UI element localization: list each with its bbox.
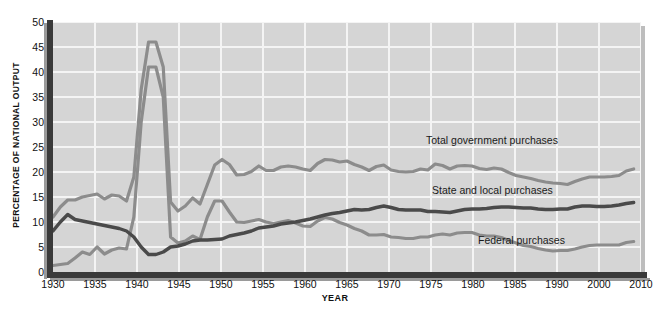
annotation-federal: Federal purchases: [478, 234, 565, 246]
y-tick-label: 0: [20, 267, 44, 278]
y-tick-label: 10: [20, 217, 44, 228]
y-tick-label: 40: [20, 67, 44, 78]
y-axis-bar: [47, 20, 53, 276]
annotation-total-government: Total government purchases: [426, 134, 558, 146]
annotation-state-and-local: State and local purchases: [432, 184, 553, 196]
y-tick-label: 45: [20, 42, 44, 53]
y-tick-label: 15: [20, 192, 44, 203]
x-tick-label: 2010: [616, 278, 666, 290]
chart-container: PERCENTAGE OF NATIONAL OUTPUT 5045403530…: [0, 0, 670, 314]
y-tick-label: 20: [20, 167, 44, 178]
plot-right-edge: [641, 26, 645, 276]
x-axis-title: YEAR: [0, 293, 670, 303]
y-tick-label: 35: [20, 92, 44, 103]
y-tick-label: 30: [20, 117, 44, 128]
y-tick-label: 25: [20, 142, 44, 153]
y-axis-tick-labels: 50454035302520151050: [12, 0, 44, 314]
series-line: [53, 203, 634, 255]
y-tick-label: 5: [20, 242, 44, 253]
y-tick-label: 50: [20, 17, 44, 28]
